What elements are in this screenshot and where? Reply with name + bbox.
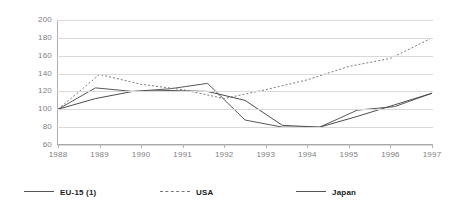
x-tick-label: 1993	[243, 150, 289, 160]
chart-legend: EU-15 (1)USAJapan	[0, 184, 456, 200]
series-line	[58, 83, 432, 127]
legend-line-icon	[24, 187, 54, 197]
x-tick-mark	[307, 144, 308, 148]
legend-label: Japan	[332, 188, 356, 197]
plot-area	[57, 20, 433, 145]
y-tick-label: 140	[6, 70, 52, 78]
legend-label: EU-15 (1)	[60, 188, 96, 197]
gridline-y	[57, 127, 433, 128]
x-tick-label: 1992	[201, 150, 247, 160]
gridline-y	[57, 56, 433, 57]
x-tick-mark	[100, 144, 101, 148]
legend-item[interactable]: USA	[160, 187, 296, 197]
gridline-y	[57, 109, 433, 110]
gridline-y	[57, 91, 433, 92]
x-tick-mark	[349, 144, 350, 148]
x-tick-label: 1991	[160, 150, 206, 160]
x-tick-mark	[266, 144, 267, 148]
legend-label: USA	[196, 188, 214, 197]
x-tick-label: 1996	[367, 150, 413, 160]
legend-line-icon	[160, 187, 190, 197]
x-tick-mark	[224, 144, 225, 148]
x-tick-mark	[183, 144, 184, 148]
x-tick-label: 1994	[284, 150, 330, 160]
y-tick-label: 120	[6, 87, 52, 95]
legend-item[interactable]: EU-15 (1)	[24, 187, 160, 197]
x-tick-mark	[58, 144, 59, 148]
x-tick-label: 1990	[118, 150, 164, 160]
y-tick-label: 200	[6, 16, 52, 24]
x-tick-label: 1989	[77, 150, 123, 160]
legend-line-icon	[296, 187, 326, 197]
x-tick-label: 1997	[409, 150, 455, 160]
gridline-y	[57, 20, 433, 21]
y-tick-label: 160	[6, 52, 52, 60]
x-tick-mark	[141, 144, 142, 148]
y-tick-label: 180	[6, 34, 52, 42]
y-axis-labels: 6080100120140160180200	[0, 20, 52, 145]
legend-item[interactable]: Japan	[296, 187, 432, 197]
x-tick-mark	[432, 144, 433, 148]
y-tick-label: 100	[6, 105, 52, 113]
x-tick-label: 1988	[35, 150, 81, 160]
x-tick-label: 1995	[326, 150, 372, 160]
gridline-y	[57, 38, 433, 39]
gridline-y	[57, 145, 433, 146]
gridline-y	[57, 74, 433, 75]
x-tick-mark	[390, 144, 391, 148]
y-tick-label: 80	[6, 123, 52, 131]
x-axis-labels: 1988198919901991199219931994199519961997	[57, 150, 433, 162]
line-chart: 6080100120140160180200 19881989199019911…	[0, 0, 456, 209]
y-tick-label: 60	[6, 141, 52, 149]
